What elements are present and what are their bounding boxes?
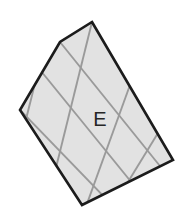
shape-label-e: E	[93, 108, 106, 130]
geometric-figure: E	[0, 0, 190, 216]
